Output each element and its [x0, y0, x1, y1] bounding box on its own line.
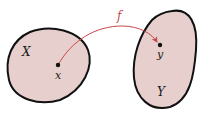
domain-label: X	[21, 45, 31, 59]
function-mapping-diagram: X x y Y f	[0, 0, 208, 113]
point-x	[56, 63, 60, 67]
point-x-label: x	[55, 69, 62, 82]
mapping-label-f: f	[116, 9, 124, 23]
point-y-label: y	[156, 48, 164, 61]
codomain-label: Y	[157, 85, 166, 99]
codomain-set-Y	[134, 11, 197, 108]
point-y	[158, 43, 162, 47]
domain-set-X	[8, 29, 90, 103]
